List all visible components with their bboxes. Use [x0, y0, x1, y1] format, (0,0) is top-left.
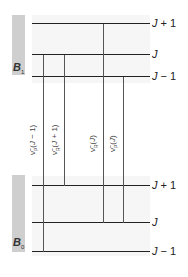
upper-level-label-j-plus-1: J + 1: [152, 17, 176, 29]
lower-state-band: [32, 176, 150, 256]
upper-level-j-minus-1: [32, 76, 150, 77]
upper-state-label: B1: [13, 61, 24, 75]
transition-label-p-j: ν̃P(J): [108, 135, 119, 152]
upper-level-j: [32, 54, 150, 55]
lower-level-j-plus-1: [32, 185, 150, 186]
transition-label-r-j: ν̃R(J): [88, 135, 99, 152]
transition-line-p-j: [123, 77, 124, 223]
lower-level-label-j: J: [152, 216, 158, 228]
upper-level-label-j: J: [152, 48, 158, 60]
transition-label-p-j-minus-1: ν̃P(J − 1): [28, 125, 39, 155]
lower-level-j: [32, 222, 150, 223]
transition-line-p-j-minus-1: [43, 55, 44, 252]
transition-line-r-j-plus-1: [64, 55, 65, 186]
upper-level-j-plus-1: [32, 23, 150, 24]
lower-level-label-j-plus-1: J + 1: [152, 179, 176, 191]
lower-level-j-minus-1: [32, 251, 150, 252]
transition-label-r-j-plus-1: ν̃R(J + 1): [50, 124, 61, 155]
transition-line-r-j: [103, 24, 104, 223]
upper-level-label-j-minus-1: J − 1: [152, 70, 176, 82]
upper-state-band: [32, 15, 150, 83]
lower-level-label-j-minus-1: J − 1: [152, 245, 176, 257]
lower-state-label: B0: [13, 236, 24, 250]
